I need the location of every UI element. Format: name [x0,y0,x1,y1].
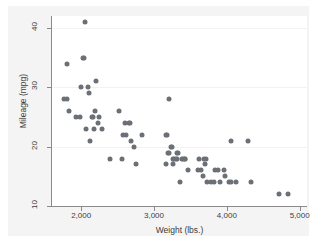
scatter-point [204,156,209,161]
scatter-point [64,61,69,66]
scatter-point [82,55,87,60]
scatter-point [90,114,95,119]
scatter-point [221,168,226,173]
scatter-point [129,138,134,143]
scatter-point [86,85,91,90]
scatter-point [234,180,239,185]
y-axis-line [51,16,52,207]
scatter-point [79,85,84,90]
scatter-point [198,168,203,173]
scatter-point [95,120,100,125]
scatter-point [87,138,92,143]
scatter-point [216,168,221,173]
scatter-point [277,192,282,197]
scatter-point [119,156,124,161]
x-axis-tick-label: 3,000 [132,211,176,220]
scatter-point [64,97,69,102]
scatter-point [108,156,113,161]
scatter-point [286,192,291,197]
scatter-point [91,126,96,131]
scatter-point [166,97,171,102]
x-axis-tick-label: 4,000 [205,211,249,220]
y-axis-tick-label-text: 10 [30,200,39,209]
scatter-point [99,126,104,131]
scatter-point [200,174,205,179]
x-axis-tick-label: 2,000 [59,211,103,220]
gridline-horizontal [52,147,307,148]
scatter-point [133,162,138,167]
screenshot-root: Mileage (mpg) Weight (lbs.) 102030402,00… [0,0,317,242]
y-axis-tick [47,206,51,207]
y-axis-tick-label: 10 [22,200,46,209]
scatter-point [203,162,208,167]
scatter-point [248,180,253,185]
scatter-point [165,132,170,137]
scatter-point [87,91,92,96]
y-axis-tick-label: 30 [22,81,46,90]
scatter-point [183,156,188,161]
scatter-point [245,138,250,143]
x-axis-title: Weight (lbs.) [52,225,307,235]
scatter-point [229,138,234,143]
y-axis-tick-label-text: 20 [30,141,39,150]
scatter-point [186,168,191,173]
scatter-point [170,144,175,149]
scatter-point [93,79,98,84]
scatter-point [164,162,169,167]
scatter-point [170,162,175,167]
x-axis-line [51,206,307,207]
scatter-point [167,150,172,155]
scatter-point [66,109,71,114]
scatter-point [82,19,87,24]
scatter-point [217,180,222,185]
y-axis-tick-label-text: 30 [30,81,39,90]
scatter-point [132,144,137,149]
scatter-point [77,114,82,119]
graph-region: Mileage (mpg) Weight (lbs.) 102030402,00… [8,6,309,236]
plot-area [52,16,307,206]
y-axis-tick [47,87,51,88]
y-axis-tick-label: 40 [22,22,46,31]
gridline-horizontal [52,28,307,29]
scatter-point [117,109,122,114]
scatter-point [96,114,101,119]
scatter-point [124,132,129,137]
scatter-point [223,174,228,179]
y-axis-tick-label: 20 [22,141,46,150]
scatter-point [127,120,132,125]
y-axis-tick [47,28,51,29]
y-axis-tick [47,147,51,148]
scatter-point [176,150,181,155]
x-axis-tick-label: 5,000 [278,211,317,220]
scatter-point [92,109,97,114]
scatter-point [84,126,89,131]
scatter-point [139,132,144,137]
y-axis-tick-label-text: 40 [30,22,39,31]
scatter-point [177,180,182,185]
